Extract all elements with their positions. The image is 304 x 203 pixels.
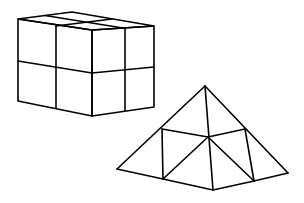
pyramid-edge-right [205,86,288,173]
pyramid-shape [117,86,288,190]
pyramid-edge-left [117,86,205,169]
figure-canvas [0,0,304,203]
pyramid-inner-diagonal-left [163,137,208,179]
pyramid-mid-ring [162,129,245,137]
cuboid-front-horizontal-divider [18,61,92,73]
pyramid-mid-left-vertical [162,129,163,179]
cuboid-right-face [92,26,154,116]
cuboid-shape [18,12,154,116]
cuboid-right-horizontal-divider [92,67,154,73]
pyramid-base [117,169,288,190]
